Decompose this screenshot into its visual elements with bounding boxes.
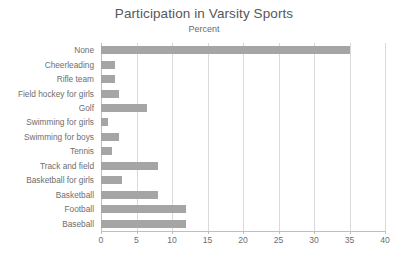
bar <box>101 191 158 199</box>
bar-row <box>101 43 385 57</box>
bar <box>101 147 112 155</box>
bar-series <box>101 43 385 231</box>
x-tick-label: 20 <box>238 235 248 245</box>
x-tick-mark <box>350 231 351 234</box>
x-tick-mark <box>385 231 386 234</box>
bar <box>101 118 108 126</box>
bar <box>101 205 186 213</box>
category-label: Tennis <box>0 144 98 158</box>
x-tick-mark <box>208 231 209 234</box>
bar <box>101 133 119 141</box>
x-tick-label: 5 <box>134 235 139 245</box>
x-axis-ticks: 0510152025303540 <box>101 231 385 247</box>
bar-row <box>101 188 385 202</box>
bar-row <box>101 159 385 173</box>
category-axis-labels: NoneCheerleadingRifle teamField hockey f… <box>0 43 98 231</box>
chart-title-block: Participation in Varsity Sports Percent <box>0 6 408 35</box>
category-label: Cheerleading <box>0 57 98 71</box>
bar-row <box>101 86 385 100</box>
bar-row <box>101 130 385 144</box>
category-label: None <box>0 43 98 57</box>
bar <box>101 75 115 83</box>
x-tick-mark <box>279 231 280 234</box>
bar <box>101 90 119 98</box>
category-label: Basketball <box>0 188 98 202</box>
category-label: Golf <box>0 101 98 115</box>
bar-row <box>101 57 385 71</box>
x-tick-label: 30 <box>309 235 319 245</box>
category-label: Basketball for girls <box>0 173 98 187</box>
bar <box>101 46 350 54</box>
x-tick-mark <box>314 231 315 234</box>
category-label: Track and field <box>0 159 98 173</box>
bar <box>101 104 147 112</box>
bar <box>101 162 158 170</box>
bar-row <box>101 115 385 129</box>
category-label: Baseball <box>0 216 98 230</box>
gridline <box>385 43 386 231</box>
plot-area <box>101 43 385 231</box>
bar-row <box>101 72 385 86</box>
x-tick-label: 10 <box>167 235 177 245</box>
bar-row <box>101 173 385 187</box>
x-tick-label: 25 <box>274 235 284 245</box>
x-tick-mark <box>172 231 173 234</box>
x-tick-label: 15 <box>203 235 213 245</box>
bar-row <box>101 216 385 230</box>
x-tick-label: 0 <box>99 235 104 245</box>
bar <box>101 61 115 69</box>
category-label: Swimming for boys <box>0 130 98 144</box>
varsity-sports-bar-chart: Participation in Varsity Sports Percent … <box>0 0 408 262</box>
bar-row <box>101 101 385 115</box>
category-label: Swimming for girls <box>0 115 98 129</box>
bar-row <box>101 202 385 216</box>
x-tick-mark <box>101 231 102 234</box>
bar-row <box>101 144 385 158</box>
bar <box>101 220 186 228</box>
category-label: Field hockey for girls <box>0 86 98 100</box>
x-tick-label: 35 <box>345 235 355 245</box>
category-label: Football <box>0 202 98 216</box>
page-title: Participation in Varsity Sports <box>0 6 408 22</box>
category-label: Rifle team <box>0 72 98 86</box>
x-tick-mark <box>243 231 244 234</box>
chart-subtitle: Percent <box>0 23 408 35</box>
bar <box>101 176 122 184</box>
x-tick-mark <box>137 231 138 234</box>
x-tick-label: 40 <box>380 235 390 245</box>
